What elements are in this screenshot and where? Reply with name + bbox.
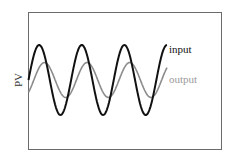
chart: input output PV xyxy=(0,0,233,159)
output-legend-label: output xyxy=(169,73,197,85)
y-axis-label: PV xyxy=(12,73,24,87)
input-legend-label: input xyxy=(169,43,192,55)
